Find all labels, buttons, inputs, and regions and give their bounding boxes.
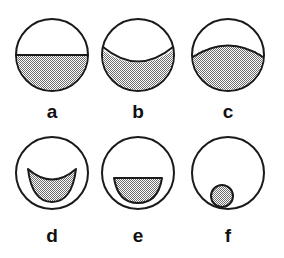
panel-a-fill [16, 55, 88, 93]
panel-a: a [16, 19, 88, 122]
six-panel-circle-diagram: a b c d e [0, 0, 284, 258]
panel-f: f [192, 137, 264, 246]
panel-b: b [100, 19, 176, 122]
panel-e: e [102, 137, 174, 246]
panel-e-label: e [133, 225, 144, 246]
panel-f-inner-circle [211, 185, 233, 207]
panel-a-label: a [47, 101, 58, 122]
panel-d-label: d [46, 225, 58, 246]
panel-b-label: b [132, 101, 144, 122]
panel-d: d [16, 137, 88, 246]
figure-container: a b c d e [0, 0, 284, 258]
panel-a-shaded-region [16, 55, 88, 93]
panel-f-label: f [225, 225, 232, 246]
panel-c-label: c [223, 101, 234, 122]
panel-c: c [190, 19, 266, 122]
